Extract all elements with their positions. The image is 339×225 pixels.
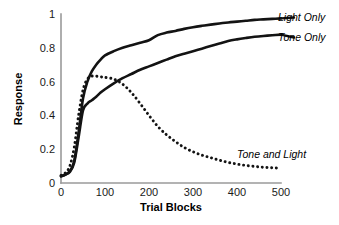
x-tick-labels: 0 100 200 300 400 500	[58, 186, 290, 198]
x-tick-label: 0	[58, 186, 64, 198]
series-annotation-tone-and-light: Tone and Light	[237, 148, 307, 160]
chart-figure: 1 0.8 0.6 0.4 0.2 0 0 100 200 300 400 50…	[0, 0, 339, 225]
x-tick-label: 400	[228, 186, 246, 198]
y-tick-label: 0.6	[40, 76, 55, 88]
chart-canvas: 1 0.8 0.6 0.4 0.2 0 0 100 200 300 400 50…	[0, 0, 339, 225]
y-axis-title: Response	[12, 73, 24, 126]
y-tick-label: 0.4	[40, 109, 55, 121]
y-tick-label: 1	[49, 8, 55, 20]
x-tick-label: 500	[272, 186, 290, 198]
y-tick-label: 0.2	[40, 143, 55, 155]
series-annotation-tone-only: Tone Only	[278, 31, 326, 43]
series-tone-and-light	[61, 76, 281, 175]
y-tick-labels: 1 0.8 0.6 0.4 0.2 0	[40, 8, 55, 189]
y-tick-label: 0.8	[40, 42, 55, 54]
series-annotation-light-only: Light Only	[278, 11, 326, 23]
x-tick-label: 200	[140, 186, 158, 198]
y-tick-label: 0	[49, 177, 55, 189]
x-tick-label: 300	[184, 186, 202, 198]
x-axis-title: Trial Blocks	[140, 201, 202, 213]
x-tick-label: 100	[96, 186, 114, 198]
